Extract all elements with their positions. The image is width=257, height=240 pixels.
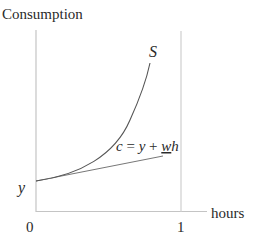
x-tick-label-1: 1 <box>177 219 185 235</box>
line-label-y: y <box>137 138 146 154</box>
curve-label-s: S <box>149 43 157 60</box>
y-axis-label: Consumption <box>2 6 83 22</box>
line-label-w: w <box>161 138 171 154</box>
diagram-canvas: Consumption S c = y + wh y 0 1 hours <box>0 0 257 240</box>
line-label-eq: = <box>123 138 139 154</box>
line-label-h: h <box>171 138 179 154</box>
line-label-plus: + <box>145 138 161 154</box>
s-curve <box>36 63 150 181</box>
origin-label: 0 <box>26 219 34 235</box>
x-axis-label: hours <box>211 205 244 221</box>
line-label: c = y + wh <box>116 138 179 154</box>
intercept-label: y <box>16 179 26 197</box>
